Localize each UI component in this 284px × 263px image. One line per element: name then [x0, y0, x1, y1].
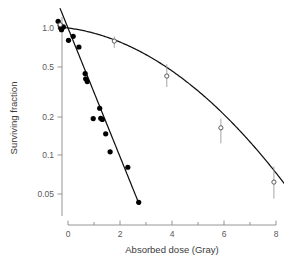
x-axis-title: Absorbed dose (Gray) [125, 244, 218, 255]
y-tick-label-2: 0.5 [42, 62, 54, 72]
x-tick-label-0: 0 [66, 229, 71, 239]
data-point-open [272, 180, 276, 184]
data-point-filled [97, 106, 102, 111]
y-tick-label-5: 0.05 [37, 189, 54, 199]
x-tick-label-8: 8 [274, 229, 279, 239]
data-point-filled [136, 200, 141, 205]
data-point-open [219, 126, 223, 130]
data-point-filled [85, 79, 90, 84]
data-point-open [112, 39, 116, 43]
data-point-filled [76, 44, 81, 49]
data-point-filled [125, 165, 130, 170]
data-point-filled [71, 34, 76, 39]
x-tick-label-2: 2 [118, 229, 123, 239]
data-point-filled [108, 149, 113, 154]
data-point-filled [100, 117, 105, 122]
survival-curve-plot: 1.0 0.5 0.2 0.1 0.05 Surviving fraction … [0, 0, 284, 263]
y-axis-title: Surviving fraction [8, 82, 19, 155]
y-tick-label-4: 0.1 [42, 150, 54, 160]
y-tick-label-3: 0.2 [42, 112, 54, 122]
x-tick-label-6: 6 [222, 229, 227, 239]
data-point-filled [103, 131, 108, 136]
data-point-open [58, 23, 62, 27]
data-point-filled [91, 116, 96, 121]
x-tick-label-4: 4 [170, 229, 175, 239]
data-point-filled [66, 38, 71, 43]
data-point-open [165, 74, 169, 78]
chart-figure: 1.0 0.5 0.2 0.1 0.05 Surviving fraction … [0, 0, 284, 263]
plot-background [0, 0, 284, 263]
y-tick-label-1: 1.0 [42, 23, 54, 33]
data-point-filled [83, 71, 88, 76]
